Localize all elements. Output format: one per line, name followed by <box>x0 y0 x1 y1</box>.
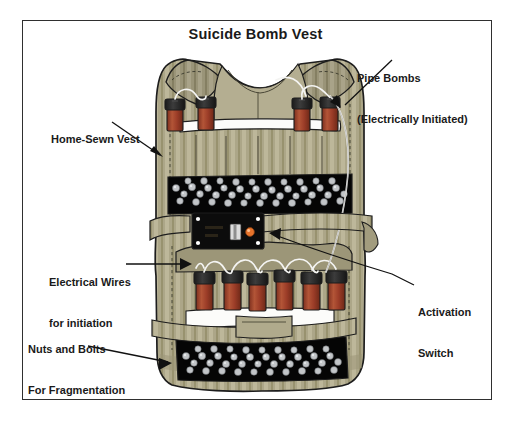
callout-pipe-bombs-line1: Pipe Bombs <box>357 72 468 86</box>
callout-home-sewn-vest: Home-Sewn Vest <box>51 106 140 174</box>
callout-pipe-bombs: Pipe Bombs (Electrically Initiated) <box>357 45 468 153</box>
callout-pipe-bombs-line2: (Electrically Initiated) <box>357 113 468 127</box>
callout-nuts-and-bolts: Nuts and Bolts For Fragmentation <box>28 316 125 423</box>
callout-activation-switch-line1: Activation <box>418 306 471 320</box>
figure-title: Suicide Bomb Vest <box>0 26 511 42</box>
callout-electrical-wires-line1: Electrical Wires <box>49 276 131 290</box>
callout-nuts-and-bolts-line2: For Fragmentation <box>28 384 125 398</box>
callout-activation-switch: Activation Switch <box>418 279 471 387</box>
callout-home-sewn-vest-line1: Home-Sewn Vest <box>51 133 140 147</box>
callout-nuts-and-bolts-line1: Nuts and Bolts <box>28 343 125 357</box>
figure-root: Suicide Bomb Vest <box>0 0 511 423</box>
callout-activation-switch-line2: Switch <box>418 347 471 361</box>
